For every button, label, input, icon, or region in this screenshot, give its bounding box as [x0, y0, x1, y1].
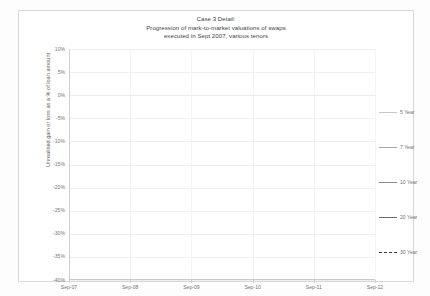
chart-title-line-3: executed in Sept 2007, various tenors — [19, 32, 413, 41]
gridline — [69, 257, 375, 258]
gridline — [69, 165, 375, 166]
gridline — [69, 188, 375, 189]
chart-title-line-2: Progression of mark-to-market valuations… — [19, 24, 413, 33]
legend-label: 7 Year — [400, 144, 414, 150]
x-tick-label: Sep-11 — [306, 284, 322, 290]
x-tick-label: Sep-08 — [122, 284, 138, 290]
y-tick-label: -5% — [56, 115, 65, 122]
gridline — [69, 118, 375, 119]
vertical-guide — [130, 49, 131, 280]
chart-title-line-1: Case 3 Detail: — [19, 15, 413, 24]
x-tick-label: Sep-12 — [367, 284, 383, 290]
y-tick-label: -35% — [53, 253, 65, 260]
legend-label: 5 Year — [400, 109, 414, 115]
x-tick-mark — [253, 280, 254, 283]
y-tick-label: 0% — [58, 92, 65, 99]
y-axis-line — [69, 49, 70, 280]
chart-frame: Case 3 Detail: Progression of mark-to-ma… — [18, 10, 414, 282]
chart-title: Case 3 Detail: Progression of mark-to-ma… — [19, 15, 413, 41]
plot-area — [69, 49, 375, 280]
legend-label: 10 Year — [400, 179, 417, 185]
y-tick-label: -25% — [53, 207, 65, 214]
legend-swatch — [379, 112, 397, 113]
legend-item-20-year[interactable]: 20 Year — [379, 212, 417, 222]
gridline — [69, 211, 375, 212]
y-axis-tick-labels: 10%5%0%-5%-10%-15%-20%-25%-30%-35%-40% — [39, 49, 67, 280]
x-tick-mark — [69, 280, 70, 283]
x-tick-label: Sep-07 — [61, 284, 77, 290]
chart-legend: 5 Year7 Year10 Year20 Year30 Year — [379, 107, 430, 253]
vertical-guide — [314, 49, 315, 280]
y-tick-label: 10% — [55, 46, 65, 53]
gridline — [69, 49, 375, 50]
x-tick-mark — [130, 280, 131, 283]
x-tick-mark — [314, 280, 315, 283]
gridline — [69, 280, 375, 281]
gridline — [69, 141, 375, 142]
legend-label: 20 Year — [400, 214, 417, 220]
legend-item-30-year[interactable]: 30 Year — [379, 247, 417, 257]
legend-swatch — [379, 217, 397, 218]
x-axis-tick-labels: Sep-07Sep-08Sep-09Sep-10Sep-11Sep-12 — [69, 282, 375, 294]
x-axis-line — [69, 279, 375, 280]
y-tick-label: -20% — [53, 184, 65, 191]
y-tick-label: 5% — [58, 69, 65, 76]
legend-label: 30 Year — [400, 249, 417, 255]
gridline — [69, 95, 375, 96]
legend-item-10-year[interactable]: 10 Year — [379, 177, 417, 187]
vertical-guide — [253, 49, 254, 280]
gridline — [69, 234, 375, 235]
legend-swatch — [379, 182, 397, 183]
y-tick-label: -40% — [53, 277, 65, 284]
x-tick-label: Sep-10 — [244, 284, 260, 290]
y-tick-label: -15% — [53, 161, 65, 168]
chart-figure: Case 3 Detail: Progression of mark-to-ma… — [0, 0, 430, 296]
gridline — [69, 72, 375, 73]
legend-swatch — [379, 147, 397, 148]
y-tick-label: -30% — [53, 230, 65, 237]
legend-item-5-year[interactable]: 5 Year — [379, 107, 414, 117]
vertical-guide — [191, 49, 192, 280]
vertical-guide — [375, 49, 376, 280]
y-tick-label: -10% — [53, 138, 65, 145]
legend-item-7-year[interactable]: 7 Year — [379, 142, 414, 152]
x-tick-label: Sep-09 — [183, 284, 199, 290]
x-tick-mark — [191, 280, 192, 283]
legend-swatch — [379, 252, 397, 253]
x-tick-mark — [375, 280, 376, 283]
